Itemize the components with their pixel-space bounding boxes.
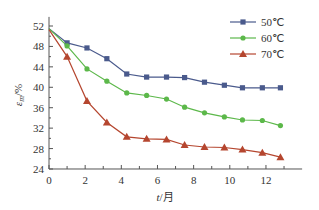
- square-marker: [84, 45, 89, 50]
- series-group: [49, 29, 284, 161]
- series-70℃: [49, 30, 284, 161]
- x-tick-label: 8: [191, 174, 197, 186]
- x-tick-label: 6: [155, 174, 161, 186]
- legend-label: 50℃: [261, 16, 284, 28]
- legend-label: 60℃: [261, 32, 284, 44]
- legend: 50℃60℃70℃: [230, 16, 284, 60]
- legend-label: 70℃: [261, 48, 284, 60]
- triangle-marker: [123, 133, 131, 140]
- x-tick-label: 10: [224, 174, 236, 186]
- circle-marker: [240, 117, 245, 122]
- y-tick-label: 40: [33, 81, 45, 93]
- x-axis-title: t/月: [156, 191, 173, 203]
- y-tick-label: 28: [33, 143, 45, 155]
- circle-marker: [124, 90, 129, 95]
- circle-marker: [182, 105, 187, 110]
- square-marker: [222, 83, 227, 88]
- square-marker: [278, 85, 283, 90]
- y-tick-label: 52: [33, 20, 44, 32]
- y-tick-label: 48: [33, 40, 45, 52]
- circle-icon: [240, 35, 245, 40]
- triangle-marker: [83, 97, 91, 104]
- series-line: [49, 30, 280, 158]
- square-marker: [104, 56, 109, 61]
- y-axis-title: εm/%: [12, 84, 26, 106]
- x-tick-label: 4: [119, 174, 125, 186]
- square-marker: [124, 71, 129, 76]
- square-marker: [202, 80, 207, 85]
- circle-marker: [84, 66, 89, 71]
- y-tick-label: 44: [33, 61, 45, 73]
- line-chart: 2428323640444852024681012 50℃60℃70℃ t/月 …: [0, 0, 319, 210]
- circle-marker: [104, 79, 109, 84]
- square-marker: [260, 85, 265, 90]
- legend-item: 50℃: [230, 16, 284, 28]
- circle-marker: [164, 96, 169, 101]
- y-tick-label: 36: [33, 102, 45, 114]
- legend-item: 60℃: [230, 32, 284, 44]
- x-tick-label: 12: [260, 174, 271, 186]
- circle-marker: [144, 93, 149, 98]
- circle-marker: [202, 110, 207, 115]
- circle-marker: [64, 43, 69, 48]
- circle-marker: [222, 114, 227, 119]
- circle-marker: [278, 123, 283, 128]
- triangle-marker: [63, 53, 71, 60]
- x-tick-label: 0: [46, 174, 52, 186]
- square-icon: [240, 19, 245, 24]
- y-tick-label: 24: [33, 163, 45, 175]
- square-marker: [144, 74, 149, 79]
- square-marker: [164, 74, 169, 79]
- x-tick-label: 2: [82, 174, 88, 186]
- legend-item: 70℃: [230, 48, 284, 60]
- square-marker: [240, 85, 245, 90]
- square-marker: [182, 75, 187, 80]
- y-tick-label: 32: [33, 122, 44, 134]
- circle-marker: [260, 118, 265, 123]
